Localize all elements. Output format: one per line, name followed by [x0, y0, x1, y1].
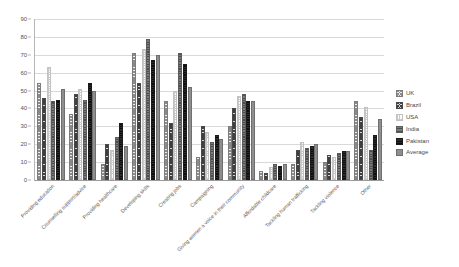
- bar-uk: [164, 101, 168, 180]
- bar-pakistan: [310, 146, 314, 180]
- bar-brazil: [169, 123, 173, 180]
- bar-average: [283, 164, 287, 180]
- bar-usa: [300, 142, 304, 180]
- bar-india: [273, 164, 277, 180]
- bar-pakistan: [88, 83, 92, 180]
- bar-usa: [78, 89, 82, 180]
- legend-swatch-icon: [396, 126, 403, 133]
- bar-usa: [332, 157, 336, 180]
- y-axis-tick-mark: [28, 54, 31, 55]
- bar-average: [124, 146, 128, 180]
- bar-uk: [69, 114, 73, 180]
- bar-pakistan: [183, 64, 187, 180]
- legend-item-india[interactable]: India: [396, 123, 459, 135]
- legend-swatch-icon: [396, 102, 403, 109]
- legend-item-usa[interactable]: USA: [396, 112, 459, 124]
- bar-average: [219, 139, 223, 180]
- bar-india: [83, 100, 87, 181]
- bar-usa: [173, 91, 177, 180]
- bar-uk: [291, 164, 295, 180]
- bar-uk: [228, 126, 232, 180]
- bar-group: [257, 19, 289, 180]
- bar-groups: [35, 19, 384, 180]
- bar-brazil: [264, 173, 268, 180]
- bar-brazil: [74, 94, 78, 180]
- bar-average: [378, 119, 382, 180]
- x-axis-labels: Providing educationCounselling support/a…: [35, 181, 384, 267]
- y-axis-tick-mark: [28, 180, 31, 181]
- bar-group: [162, 19, 194, 180]
- bar-average: [346, 151, 350, 180]
- bar-india: [146, 39, 150, 180]
- chart-legend: UKBrazilUSAIndiaPakistanAverage: [396, 88, 459, 159]
- bar-usa: [269, 167, 273, 180]
- legend-swatch-icon: [396, 90, 403, 97]
- legend-label: USA: [406, 114, 418, 121]
- y-axis-tick-mark: [28, 36, 31, 37]
- legend-label: Pakistan: [406, 138, 429, 145]
- bar-group: [194, 19, 226, 180]
- y-axis-tick-label: 50: [21, 88, 27, 94]
- y-axis-tick-label: 20: [21, 141, 27, 147]
- bar-brazil: [232, 108, 236, 180]
- legend-item-uk[interactable]: UK: [396, 88, 459, 100]
- bar-pakistan: [373, 135, 377, 180]
- y-axis-tick-label: 90: [21, 16, 27, 22]
- bar-chart: 0102030405060708090 Providing educationC…: [0, 0, 459, 267]
- bar-pakistan: [342, 151, 346, 180]
- bar-pakistan: [278, 166, 282, 180]
- bar-india: [210, 142, 214, 180]
- y-axis-tick-mark: [28, 19, 31, 20]
- bar-india: [178, 53, 182, 180]
- bar-brazil: [137, 83, 141, 180]
- bar-brazil: [105, 144, 109, 180]
- y-axis-tick-mark: [28, 144, 31, 145]
- bar-brazil: [359, 117, 363, 180]
- y-axis-tick-label: 10: [21, 159, 27, 165]
- bar-group: [352, 19, 384, 180]
- bar-group: [130, 19, 162, 180]
- y-axis-tick-mark: [28, 90, 31, 91]
- legend-item-pakistan[interactable]: Pakistan: [396, 135, 459, 147]
- y-axis-tick-label: 40: [21, 105, 27, 111]
- bar-group: [35, 19, 67, 180]
- bar-india: [369, 150, 373, 180]
- y-axis-tick-label: 60: [21, 70, 27, 76]
- legend-swatch-icon: [396, 138, 403, 145]
- legend-label: Brazil: [406, 102, 421, 109]
- legend-swatch-icon: [396, 149, 403, 156]
- bar-average: [314, 144, 318, 180]
- bar-average: [92, 91, 96, 180]
- y-axis-tick-mark: [28, 72, 31, 73]
- bar-usa: [142, 49, 146, 180]
- legend-label: India: [406, 126, 419, 133]
- bar-group: [225, 19, 257, 180]
- legend-item-brazil[interactable]: Brazil: [396, 100, 459, 112]
- bar-uk: [259, 171, 263, 180]
- bar-uk: [196, 157, 200, 180]
- bar-india: [115, 137, 119, 180]
- bar-brazil: [296, 150, 300, 180]
- bar-uk: [323, 162, 327, 180]
- bar-usa: [237, 96, 241, 180]
- y-axis-tick-label: 30: [21, 123, 27, 129]
- bar-average: [156, 55, 160, 180]
- bar-brazil: [201, 126, 205, 180]
- y-axis-tick-mark: [28, 126, 31, 127]
- bar-uk: [354, 101, 358, 180]
- y-axis-tick-label: 0: [24, 177, 27, 183]
- y-axis-tick-label: 80: [21, 34, 27, 40]
- y-axis-tick-mark: [28, 108, 31, 109]
- bar-usa: [47, 67, 51, 180]
- bar-usa: [110, 150, 114, 180]
- bar-group: [289, 19, 321, 180]
- bar-pakistan: [215, 135, 219, 180]
- bar-pakistan: [119, 123, 123, 180]
- bar-uk: [101, 164, 105, 180]
- bar-average: [188, 87, 192, 180]
- legend-item-average[interactable]: Average: [396, 147, 459, 159]
- bar-india: [242, 94, 246, 180]
- bar-brazil: [327, 155, 331, 180]
- bar-pakistan: [56, 100, 60, 181]
- bar-group: [98, 19, 130, 180]
